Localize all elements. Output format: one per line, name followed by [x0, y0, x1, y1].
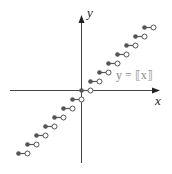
closed-dot	[25, 142, 30, 147]
closed-dot	[115, 52, 120, 57]
closed-dot	[79, 88, 84, 93]
open-dot	[133, 43, 138, 48]
closed-dot	[142, 25, 147, 30]
closed-dot	[88, 79, 93, 84]
open-dot	[43, 133, 48, 138]
open-dot	[70, 106, 75, 111]
closed-dot	[133, 34, 138, 39]
closed-dot	[124, 43, 129, 48]
y-axis-label: y	[85, 5, 93, 20]
closed-dot	[70, 97, 75, 102]
open-dot	[142, 34, 147, 39]
step-function-chart: x y y = ⟦x⟧	[0, 0, 172, 174]
closed-dot	[52, 115, 57, 120]
x-axis-label: x	[154, 93, 161, 108]
closed-dot	[34, 133, 39, 138]
open-dot	[97, 79, 102, 84]
closed-dot	[106, 61, 111, 66]
open-dot	[151, 25, 156, 30]
open-dot	[115, 61, 120, 66]
closed-dot	[43, 124, 48, 129]
closed-dot	[61, 106, 66, 111]
open-dot	[34, 142, 39, 147]
closed-dot	[16, 151, 21, 156]
open-dot	[106, 70, 111, 75]
open-dot	[88, 88, 93, 93]
open-dot	[25, 151, 30, 156]
closed-dot	[97, 70, 102, 75]
open-dot	[61, 115, 66, 120]
open-dot	[52, 124, 57, 129]
open-dot	[79, 97, 84, 102]
open-dot	[124, 52, 129, 57]
function-label: y = ⟦x⟧	[116, 68, 153, 82]
